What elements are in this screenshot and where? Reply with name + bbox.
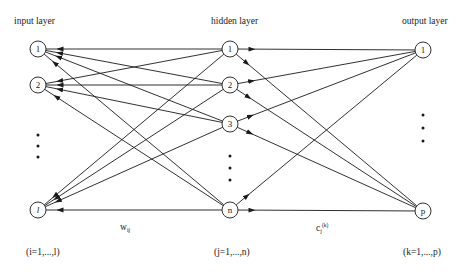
- node-il: l: [30, 202, 46, 218]
- ellipsis-dot: [422, 114, 425, 117]
- node-label: 2: [228, 80, 233, 90]
- ellipsis-dot: [37, 156, 40, 159]
- node-h1: 1: [222, 41, 238, 57]
- network-graph: 12l123n1p: [0, 0, 462, 272]
- weight-c-superscript: (k): [322, 222, 328, 228]
- edge-il-h3: [45, 127, 222, 206]
- edge-i2-h3: [46, 87, 222, 123]
- ellipsis-dot: [422, 127, 425, 130]
- hidden-index-label: (j=1,...,n): [214, 248, 250, 258]
- weight-w-label: wij: [120, 223, 130, 233]
- neural-network-diagram: 12l123n1p input layer hidden layer outpu…: [0, 0, 462, 272]
- ellipsis-dot: [229, 155, 232, 158]
- node-label: 1: [36, 44, 41, 54]
- weight-w-base: w: [120, 222, 127, 232]
- node-i2: 2: [30, 77, 46, 93]
- node-hn: n: [222, 202, 238, 218]
- node-label: 3: [228, 119, 233, 129]
- ellipsis-dot: [422, 140, 425, 143]
- output-index-label: (k=1,...,p): [403, 248, 441, 258]
- node-label: n: [228, 205, 233, 215]
- node-label: 1: [228, 44, 233, 54]
- edge-h3-o1: [237, 53, 415, 121]
- ellipsis-dot: [37, 134, 40, 137]
- node-i1: 1: [30, 41, 46, 57]
- nodes: 12l123n1p: [30, 41, 431, 219]
- ellipsis-dot: [229, 167, 232, 170]
- weight-w-subscript: ij: [127, 227, 130, 233]
- node-label: 1: [421, 45, 426, 55]
- edge-h1-o1: [238, 49, 415, 50]
- node-h2: 2: [222, 77, 238, 93]
- edge-hn-op: [238, 210, 415, 211]
- input-layer-label: input layer: [14, 17, 55, 27]
- input-index-label: (i=1,...,l): [26, 248, 60, 258]
- ellipsis-dot: [229, 179, 232, 182]
- edge-h3-op: [237, 127, 415, 207]
- edge-h2-op: [237, 89, 417, 206]
- weight-c-label: cj(k): [316, 223, 328, 234]
- weight-c-subscript: j: [320, 228, 322, 234]
- hidden-layer-label: hidden layer: [211, 17, 258, 27]
- node-o1: 1: [415, 42, 431, 58]
- node-op: p: [415, 203, 431, 219]
- edge-i1-h3: [45, 52, 222, 121]
- node-label: p: [421, 206, 426, 216]
- edge-hn-o1: [236, 55, 417, 205]
- node-label: 2: [36, 80, 41, 90]
- ellipsis-dot: [37, 145, 40, 148]
- node-h3: 3: [222, 116, 238, 132]
- output-layer-label: output layer: [402, 17, 448, 27]
